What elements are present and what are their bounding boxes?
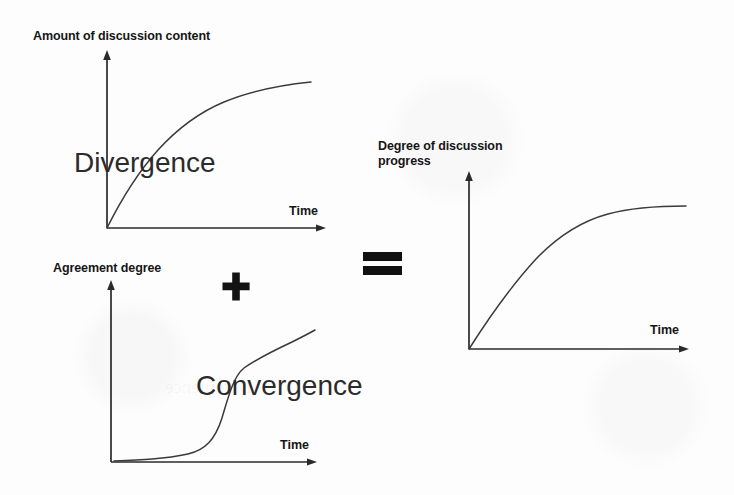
convergence-phase-label: Convergence <box>196 370 363 402</box>
result-y-axis-title: Degree of discussion progress <box>378 139 502 169</box>
plus-icon <box>222 272 250 301</box>
result-y-axis-arrow <box>465 171 473 181</box>
result-x-axis-title: Time <box>650 323 679 337</box>
panel-divergence: Amount of discussion content Divergence … <box>0 0 360 248</box>
divergence-y-axis-title: Amount of discussion content <box>33 29 210 44</box>
convergence-x-axis-title: Time <box>280 438 309 452</box>
divergence-x-axis-arrow <box>316 224 326 231</box>
result-x-axis-arrow <box>679 345 689 352</box>
figure-canvas: Amount of discussion content Divergence … <box>0 0 734 495</box>
convergence-y-axis-arrow <box>107 280 115 290</box>
divergence-x-axis-title: Time <box>289 204 318 218</box>
plus-operator <box>222 272 250 301</box>
divergence-y-axis-arrow <box>103 50 111 60</box>
convergence-x-axis-arrow <box>307 458 317 465</box>
divergence-phase-label: Divergence <box>74 147 216 179</box>
panel-result: Degree of discussion progress Time <box>360 130 734 370</box>
convergence-y-axis-title: Agreement degree <box>53 261 161 276</box>
panel-convergence: Agreement degree Convergence Time Diverg… <box>0 248 360 495</box>
